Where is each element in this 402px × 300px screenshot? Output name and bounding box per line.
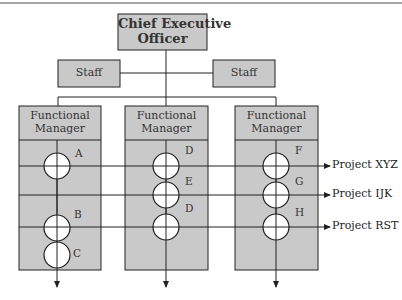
fm-header-left: Functional Manager	[19, 110, 101, 135]
fm-header-left-line1: Functional	[19, 110, 101, 123]
ceo-label: Chief Executive Officer	[118, 17, 207, 47]
node-label-d1: D	[185, 144, 193, 156]
fm-header-middle-line2: Manager	[125, 123, 208, 136]
fm-header-right-line2: Manager	[235, 123, 318, 136]
ceo-label-line2: Officer	[118, 32, 207, 47]
node-label-c: C	[73, 247, 81, 259]
fm-header-middle-line1: Functional	[125, 110, 208, 123]
project-label-xyz: Project XYZ	[332, 159, 398, 172]
matrix-org-chart: Chief Executive Officer Staff Staff Func…	[0, 0, 402, 300]
fm-header-left-line2: Manager	[19, 123, 101, 136]
ceo-label-line1: Chief Executive	[118, 17, 207, 32]
node-label-h: H	[295, 206, 304, 218]
staff-label-left: Staff	[58, 67, 120, 80]
node-label-d2: D	[185, 202, 193, 214]
node-label-b: B	[74, 208, 82, 220]
node-label-f: F	[295, 144, 302, 156]
fm-header-middle: Functional Manager	[125, 110, 208, 135]
node-label-g: G	[295, 175, 303, 187]
fm-header-right: Functional Manager	[235, 110, 318, 135]
project-label-rst: Project RST	[332, 220, 398, 233]
fm-header-right-line1: Functional	[235, 110, 318, 123]
staff-label-right: Staff	[213, 67, 275, 80]
project-label-ijk: Project IJK	[332, 188, 392, 201]
node-label-a: A	[75, 147, 83, 159]
node-label-e: E	[185, 175, 193, 187]
